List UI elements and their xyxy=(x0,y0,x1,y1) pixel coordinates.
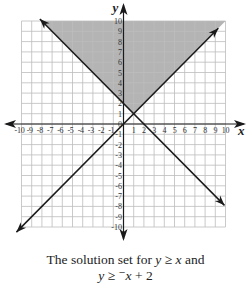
y-tick-label: -9 xyxy=(115,213,122,222)
y-tick-label: -8 xyxy=(115,202,122,211)
y-axis-label: y xyxy=(111,0,119,15)
caption-op: ≥ xyxy=(104,268,118,283)
y-tick-label: 10 xyxy=(114,17,122,26)
inequality-graph: -10-9-8-7-6-5-4-3-2-112345678910-10-9-8-… xyxy=(0,0,251,245)
x-tick-label: 9 xyxy=(213,126,217,135)
y-tick-label: -4 xyxy=(115,161,122,170)
y-tick-label: -5 xyxy=(115,172,122,181)
x-tick-label: -5 xyxy=(67,126,73,135)
x-tick-label: -2 xyxy=(98,126,104,135)
x-axis-label: x xyxy=(237,123,245,138)
x-tick-label: 7 xyxy=(193,126,197,135)
x-tick-label: -6 xyxy=(57,126,63,135)
y-tick-label: -2 xyxy=(115,141,122,150)
caption-line-2: y ≥ ⁻x + 2 xyxy=(0,268,251,283)
y-tick-label: -10 xyxy=(111,223,122,232)
x-tick-label: -7 xyxy=(47,126,53,135)
x-tick-label: 6 xyxy=(183,126,187,135)
y-tick-label: -3 xyxy=(115,151,122,160)
y-tick-label: 3 xyxy=(118,89,122,98)
y-tick-label: 8 xyxy=(118,38,122,47)
y-tick-label: 5 xyxy=(118,69,122,78)
x-tick-label: 1 xyxy=(132,126,136,135)
x-tick-label: -4 xyxy=(78,126,84,135)
x-tick-label: 4 xyxy=(162,126,166,135)
y-tick-label: -6 xyxy=(115,182,122,191)
x-tick-label: -9 xyxy=(27,126,33,135)
y-tick-label: 1 xyxy=(118,110,122,119)
x-tick-label: 2 xyxy=(142,126,146,135)
y-tick-label: -7 xyxy=(115,192,122,201)
caption-text: The solution set for xyxy=(47,252,156,267)
x-tick-label: -3 xyxy=(88,126,94,135)
x-tick-label: -10 xyxy=(15,126,25,135)
x-tick-label: 8 xyxy=(203,126,207,135)
caption-line-1: The solution set for y ≥ x and xyxy=(0,252,251,267)
caption-neg-sign: ⁻ xyxy=(118,268,125,283)
x-tick-label: 10 xyxy=(222,126,230,135)
y-tick-label: 7 xyxy=(118,48,122,57)
caption-text: + 2 xyxy=(132,268,153,283)
x-tick-label: 5 xyxy=(173,126,177,135)
caption-op: ≥ xyxy=(161,252,175,267)
caption-text: and xyxy=(182,252,205,267)
y-tick-label: 9 xyxy=(118,27,122,36)
y-tick-label: 4 xyxy=(118,79,122,88)
x-tick-label: -8 xyxy=(37,126,43,135)
y-tick-label: 6 xyxy=(118,58,122,67)
